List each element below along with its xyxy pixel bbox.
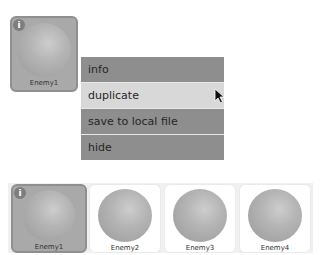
sprite-thumbnail	[23, 190, 75, 241]
menu-item-label: info	[88, 63, 109, 76]
sprite-label: Enemy1	[30, 79, 59, 87]
sprite-thumbnail	[17, 23, 71, 77]
sprite-card-enemy2[interactable]: Enemy2	[89, 184, 161, 253]
sprite-thumbnail	[173, 189, 227, 242]
menu-item-save-to-local-file[interactable]: save to local file	[81, 109, 224, 134]
menu-item-label: duplicate	[88, 89, 139, 102]
context-menu: info duplicate save to local file hide	[81, 57, 224, 159]
menu-item-label: save to local file	[88, 115, 178, 128]
menu-item-hide[interactable]: hide	[81, 135, 224, 160]
menu-item-label: hide	[88, 141, 112, 154]
mouse-cursor-icon	[214, 88, 226, 104]
sprite-label: Enemy3	[186, 244, 215, 252]
info-icon[interactable]: i	[13, 19, 25, 31]
sprite-label: Enemy1	[35, 243, 64, 251]
sprite-card-enemy1-context[interactable]: i Enemy1	[10, 16, 78, 92]
sprite-thumbnail	[248, 189, 302, 242]
sprite-card-enemy4[interactable]: Enemy4	[239, 184, 311, 253]
sprite-card-enemy1[interactable]: i Enemy1	[11, 184, 87, 253]
menu-item-duplicate[interactable]: duplicate	[81, 83, 224, 108]
sprite-label: Enemy4	[261, 244, 290, 252]
info-icon[interactable]: i	[14, 187, 26, 199]
sprite-thumbnail	[98, 189, 152, 242]
sprite-label: Enemy2	[111, 244, 140, 252]
menu-item-info[interactable]: info	[81, 57, 224, 82]
sprite-card-enemy3[interactable]: Enemy3	[164, 184, 236, 253]
